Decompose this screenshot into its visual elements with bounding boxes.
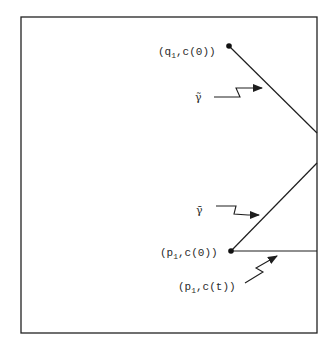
label-p1-ct: (p1,c(t))	[178, 281, 236, 295]
label-q1-c0: (q1,c(0))	[158, 46, 216, 60]
p1-ct-pointer-arrow	[245, 256, 277, 283]
point-q1-dot	[226, 43, 232, 49]
label-p1-c0: (p1,c(0))	[160, 247, 218, 261]
diagram-canvas: (q1,c(0)) γ̃ γ̄ (p1,c(0)) (p1,c(t))	[0, 0, 335, 349]
gamma-tilde-pointer-arrow	[214, 88, 262, 97]
label-gamma-tilde: γ̃	[195, 91, 202, 104]
gamma-tilde-curve	[229, 46, 317, 133]
gamma-bar-pointer-arrow	[216, 206, 259, 215]
diagram-frame	[21, 17, 317, 333]
label-gamma-bar: γ̄	[196, 204, 203, 217]
gamma-bar-curve	[231, 163, 317, 251]
point-p1-dot	[228, 248, 234, 254]
